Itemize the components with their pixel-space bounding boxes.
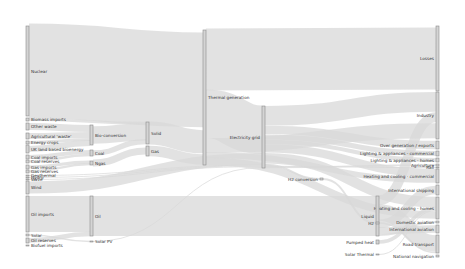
node-label: Oil xyxy=(95,214,101,219)
node-bar xyxy=(26,245,29,246)
node-label: National navigation xyxy=(393,254,434,259)
node-bar xyxy=(203,30,206,165)
node-lighting_commercial: Lighting & appliances - commercial xyxy=(360,151,439,156)
node-coal_reserves: Coal reserves xyxy=(26,159,59,164)
node-bar xyxy=(436,169,439,183)
node-label: H2 xyxy=(368,221,374,226)
node-bar xyxy=(376,196,379,236)
node-label: Domestic aviation xyxy=(396,220,434,225)
node-bar xyxy=(376,254,379,255)
node-bar xyxy=(436,26,439,91)
node-label: Biomass imports xyxy=(31,117,66,122)
node-bar xyxy=(26,177,29,178)
node-bar xyxy=(26,181,29,194)
node-label: Solar xyxy=(31,233,42,238)
node-label: Energy crops xyxy=(31,140,58,145)
node-label: H2 conversion xyxy=(288,177,318,182)
sankey-diagram: NuclearBiomass importsOther wasteAgricul… xyxy=(0,0,465,269)
node-bar xyxy=(26,238,29,243)
node-label: Lighting & appliances - commercial xyxy=(360,151,434,156)
node-bar xyxy=(436,197,439,219)
node-bar xyxy=(436,167,439,168)
node-solar_thermal: Solar Thermal xyxy=(345,252,379,257)
node-label: Oil imports xyxy=(31,212,54,217)
node-ngas: Ngas xyxy=(90,161,106,166)
node-bar xyxy=(146,146,149,156)
node-bar xyxy=(26,165,29,169)
node-h2_conversion: H2 conversion xyxy=(288,177,323,182)
node-label: Biofuel imports xyxy=(31,243,63,248)
node-label: Solid xyxy=(151,131,162,136)
node-label: Solar PV xyxy=(95,239,113,244)
node-label: Road transport xyxy=(403,242,435,247)
node-bar xyxy=(436,151,439,156)
node-bar xyxy=(436,92,439,139)
node-agri_waste: Agricultural 'waste' xyxy=(26,133,71,139)
node-bar xyxy=(26,160,29,163)
node-bar xyxy=(436,235,439,253)
node-bar xyxy=(436,185,439,195)
node-label: Wind xyxy=(31,185,42,190)
node-bar xyxy=(26,234,29,236)
node-energy_crops: Energy crops xyxy=(26,140,58,145)
node-label: Nuclear xyxy=(31,69,47,74)
link-thermal_generation-losses xyxy=(206,59,436,60)
node-label: Agricultural 'waste' xyxy=(31,134,71,139)
node-bar xyxy=(26,118,29,121)
node-label: Bio-conversion xyxy=(95,133,126,138)
node-label: Heating and cooling - commercial xyxy=(363,174,434,179)
link-thermal_generation-electricity_grid xyxy=(206,114,262,130)
node-bar xyxy=(26,155,29,159)
node-bar xyxy=(26,170,29,173)
node-bar xyxy=(90,150,93,156)
node-other_waste: Other waste xyxy=(26,123,57,130)
node-bar xyxy=(26,179,29,180)
node-label: Over generation / exports xyxy=(380,143,434,148)
node-label: Industry xyxy=(417,113,435,118)
node-bar xyxy=(436,221,439,223)
node-label: Heating and cooling - homes xyxy=(374,206,434,211)
node-bar xyxy=(26,141,29,144)
node-bar xyxy=(436,164,439,166)
node-pumped_heat: Pumped heat xyxy=(346,240,379,245)
node-coal: Coal xyxy=(90,150,104,156)
node-label: Wave xyxy=(31,177,43,182)
node-bar xyxy=(26,175,29,176)
node-bar xyxy=(90,196,93,236)
link-electricity_grid-industry xyxy=(265,102,436,116)
node-bar xyxy=(26,133,29,139)
node-label: Liquid xyxy=(361,214,374,219)
node-label: Gas xyxy=(151,149,159,154)
node-label: Other waste xyxy=(31,124,57,129)
node-bar xyxy=(90,125,93,145)
node-bar xyxy=(436,158,439,162)
node-label: Losses xyxy=(420,56,434,61)
node-label: Solar Thermal xyxy=(345,252,374,257)
node-bar xyxy=(376,240,379,244)
node-label: Coal xyxy=(95,151,104,156)
node-label: Thermal generation xyxy=(207,95,250,100)
node-label: Pumped heat xyxy=(346,240,374,245)
node-biofuel_imports: Biofuel imports xyxy=(26,243,63,248)
node-bar xyxy=(90,241,93,242)
node-bar xyxy=(146,122,149,144)
node-bar xyxy=(26,145,29,153)
link-nuclear-thermal_generation xyxy=(29,71,203,80)
node-bar xyxy=(26,26,29,116)
node-label: International aviation xyxy=(389,227,434,232)
node-solar: Solar xyxy=(26,233,42,238)
node-label: International shipping xyxy=(388,188,434,193)
node-bar xyxy=(262,106,265,168)
node-national_navigation: National navigation xyxy=(393,254,439,259)
node-bar xyxy=(436,255,439,257)
node-bar xyxy=(436,225,439,233)
node-domestic_aviation: Domestic aviation xyxy=(396,220,439,225)
node-label: UK land based bioenergy xyxy=(31,147,84,152)
node-label: Ngas xyxy=(95,161,106,166)
node-label: Electricity grid xyxy=(230,135,261,140)
node-biomass_imports: Biomass imports xyxy=(26,117,66,122)
node-bar xyxy=(26,196,29,232)
node-bar xyxy=(26,123,29,130)
node-label: Rail xyxy=(426,165,434,170)
node-bar xyxy=(436,141,439,149)
